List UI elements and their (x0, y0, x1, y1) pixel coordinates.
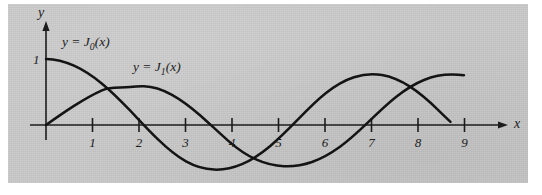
x-tick-label-3: 3 (179, 136, 193, 149)
curve-label-j0-suffix: (x) (95, 34, 110, 49)
x-tick-label-4: 4 (225, 136, 239, 149)
curve-label-j1-suffix: (x) (166, 59, 181, 74)
x-tick-label-7: 7 (365, 136, 379, 149)
x-tick-label-2: 2 (132, 136, 146, 149)
curve-label-j0: y = J0(x) (62, 35, 110, 51)
plot-canvas (0, 0, 542, 195)
curve-label-j1: y = J1(x) (133, 60, 181, 76)
bessel-function-figure: y x 1 y = J0(x) y = J1(x) 1 2 3 4 5 6 7 … (0, 0, 542, 195)
y-axis-value-1: 1 (33, 53, 40, 66)
x-tick-label-9: 9 (458, 136, 472, 149)
x-tick-label-5: 5 (272, 136, 286, 149)
curve-label-j0-prefix: y = J (62, 34, 90, 49)
x-tick-label-6: 6 (318, 136, 332, 149)
curve-j0 (46, 59, 451, 170)
y-axis-label: y (38, 6, 44, 20)
curve-j1 (46, 75, 464, 167)
x-tick-label-8: 8 (411, 136, 425, 149)
x-axis-label: x (514, 117, 520, 131)
curve-label-j1-prefix: y = J (133, 59, 161, 74)
x-axis (30, 121, 508, 128)
x-tick-label-1: 1 (86, 136, 100, 149)
